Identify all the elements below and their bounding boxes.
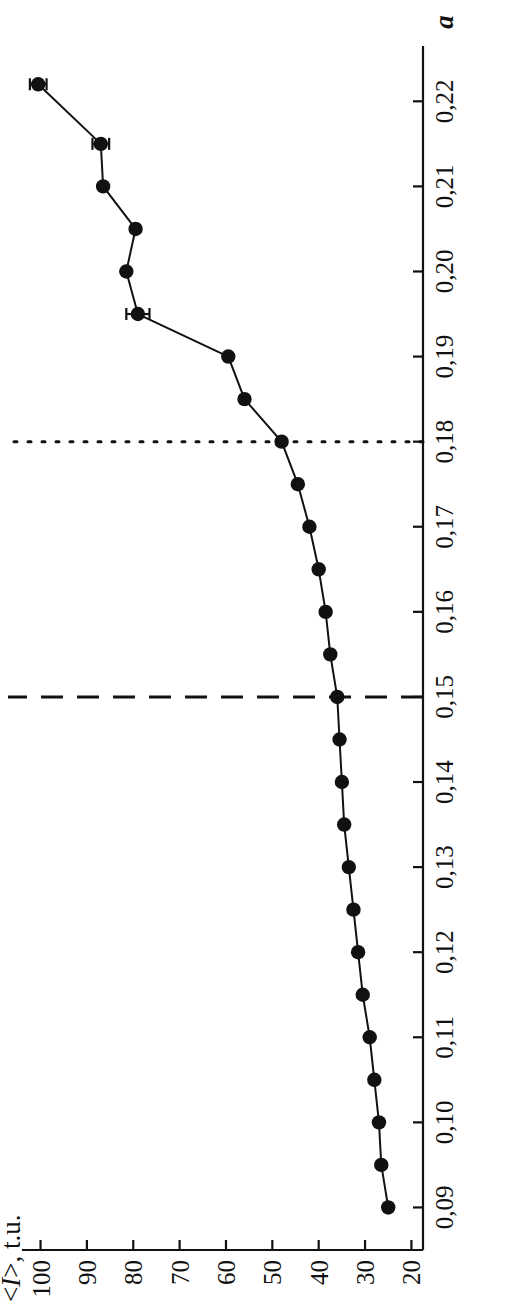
data-point-marker[interactable]: [356, 988, 370, 1002]
y-tick-label: 30: [352, 1260, 379, 1285]
chart-svg: 0,090,100,110,120,130,140,150,160,170,18…: [0, 0, 510, 1312]
y-tick-label: 20: [398, 1260, 425, 1285]
data-point-marker[interactable]: [374, 1158, 388, 1172]
figure-canvas: 0,090,100,110,120,130,140,150,160,170,18…: [0, 0, 510, 1312]
x-tick-label: 0,22: [431, 79, 458, 123]
y-tick-label: 40: [306, 1260, 333, 1285]
data-point-marker[interactable]: [381, 1200, 395, 1214]
data-point-marker[interactable]: [237, 392, 251, 406]
x-tick-label: 0,16: [431, 590, 458, 634]
data-point-marker[interactable]: [372, 1115, 386, 1129]
x-tick-label: 0,18: [431, 420, 458, 464]
data-point-marker[interactable]: [128, 222, 142, 236]
x-tick-label: 0,13: [431, 845, 458, 889]
x-tick-label: 0,15: [431, 675, 458, 719]
data-point-marker[interactable]: [119, 264, 133, 278]
data-point-marker[interactable]: [311, 562, 325, 576]
x-tick-label: 0,21: [431, 165, 458, 209]
y-tick-label: 100: [28, 1260, 55, 1298]
data-point-marker[interactable]: [337, 817, 351, 831]
x-tick-label: 0,11: [431, 1016, 458, 1059]
data-point-marker[interactable]: [362, 1030, 376, 1044]
data-point-marker[interactable]: [330, 690, 344, 704]
y-axis-title: <I>, t.u.: [0, 1215, 26, 1302]
x-tick-label: 0,17: [431, 505, 458, 549]
data-point-marker[interactable]: [323, 647, 337, 661]
x-tick-label: 0,20: [431, 250, 458, 294]
data-line: [38, 84, 388, 1207]
data-point-marker[interactable]: [131, 307, 145, 321]
data-point-marker[interactable]: [291, 477, 305, 491]
data-point-marker[interactable]: [346, 902, 360, 916]
x-tick-label: 0,09: [431, 1186, 458, 1230]
data-point-marker[interactable]: [335, 775, 349, 789]
data-point-marker[interactable]: [342, 860, 356, 874]
x-tick-label: 0,14: [431, 760, 458, 804]
chart-plot: 0,090,100,110,120,130,140,150,160,170,18…: [0, 0, 510, 1312]
data-point-marker[interactable]: [96, 179, 110, 193]
y-tick-label: 50: [259, 1260, 286, 1285]
y-tick-label: 70: [167, 1260, 194, 1285]
data-point-marker[interactable]: [351, 945, 365, 959]
data-point-marker[interactable]: [367, 1073, 381, 1087]
y-tick-label: 80: [120, 1260, 147, 1285]
data-point-marker[interactable]: [221, 349, 235, 363]
data-point-marker[interactable]: [318, 605, 332, 619]
x-tick-label: 0,12: [431, 930, 458, 974]
rotated-figure-wrapper: 0,090,100,110,120,130,140,150,160,170,18…: [0, 0, 510, 1312]
data-point-marker[interactable]: [94, 137, 108, 151]
y-tick-label: 60: [213, 1260, 240, 1285]
data-point-marker[interactable]: [302, 520, 316, 534]
x-axis-title: a: [429, 15, 459, 29]
data-point-marker[interactable]: [274, 434, 288, 448]
x-tick-label: 0,10: [431, 1100, 458, 1144]
y-tick-label: 90: [74, 1260, 101, 1285]
x-tick-label: 0,19: [431, 335, 458, 379]
data-point-marker[interactable]: [31, 77, 45, 91]
data-point-marker[interactable]: [332, 732, 346, 746]
